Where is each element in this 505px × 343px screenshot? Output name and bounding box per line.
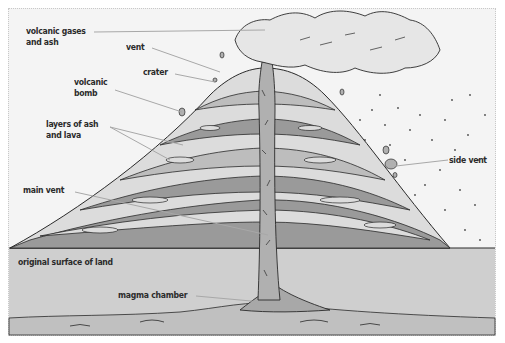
label-volcanic-gases-and-ash: volcanic gases and ash	[26, 26, 86, 48]
label-text: layers of ash	[46, 119, 98, 130]
label-magma-chamber: magma chamber	[118, 290, 187, 301]
label-text: and lava	[46, 130, 98, 141]
label-original-surface-of-land: original surface of land	[18, 257, 113, 268]
label-volcanic-bomb: volcanic bomb	[74, 77, 107, 99]
label-text: bomb	[74, 88, 107, 99]
volcano-illustration	[0, 0, 505, 343]
label-crater: crater	[143, 67, 168, 78]
label-layers-of-ash-and-lava: layers of ash and lava	[46, 119, 98, 141]
label-text: volcanic gases	[26, 26, 86, 37]
label-text: volcanic	[74, 77, 107, 88]
label-side-vent: side vent	[449, 155, 487, 166]
label-text: and ash	[26, 37, 86, 48]
label-vent: vent	[126, 42, 144, 53]
label-main-vent: main vent	[23, 185, 64, 196]
